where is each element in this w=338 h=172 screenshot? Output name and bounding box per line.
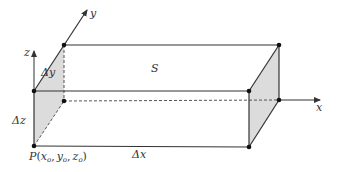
point-p-label: P(xo,yo,zo)	[28, 150, 87, 164]
x-axis-label: x	[316, 101, 323, 114]
hidden-edges	[34, 45, 279, 146]
right-face	[249, 45, 279, 147]
diagram-canvas: y z x S Δy Δz Δx P(xo,yo,zo)	[0, 0, 338, 172]
vertices	[32, 43, 282, 150]
surface-label: S	[151, 62, 159, 75]
dx-label: Δx	[131, 148, 147, 161]
visible-edges	[34, 45, 279, 147]
y-axis-label: y	[89, 7, 97, 20]
volume-element-diagram: y z x S Δy Δz Δx P(xo,yo,zo)	[0, 0, 338, 172]
dz-label: Δz	[11, 114, 26, 127]
left-face	[34, 45, 64, 146]
z-axis-label: z	[23, 46, 30, 59]
dy-label: Δy	[40, 66, 56, 79]
